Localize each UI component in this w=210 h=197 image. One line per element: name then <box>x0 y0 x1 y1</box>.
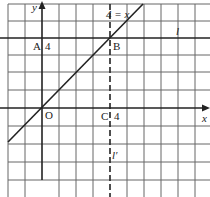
x-axis-label: x <box>201 112 207 124</box>
line-l-label: l <box>176 25 179 37</box>
point-c-value: 4 <box>114 110 120 122</box>
line-l-prime-label: l′ <box>112 149 118 161</box>
origin-label: O <box>45 109 53 121</box>
grid <box>8 4 210 197</box>
point-a-value: 4 <box>45 40 51 52</box>
point-a-label: A <box>33 40 41 52</box>
y-axis-arrow-icon <box>39 1 46 9</box>
diagonal-label: 4 = x <box>106 8 129 20</box>
y-axis-label: y <box>31 1 37 13</box>
x-axis-arrow-icon <box>202 105 210 112</box>
coordinate-diagram: y x O A 4 B C 4 4 = x l l′ <box>0 0 210 197</box>
point-b-label: B <box>113 40 120 52</box>
point-c-label: C <box>101 110 108 122</box>
